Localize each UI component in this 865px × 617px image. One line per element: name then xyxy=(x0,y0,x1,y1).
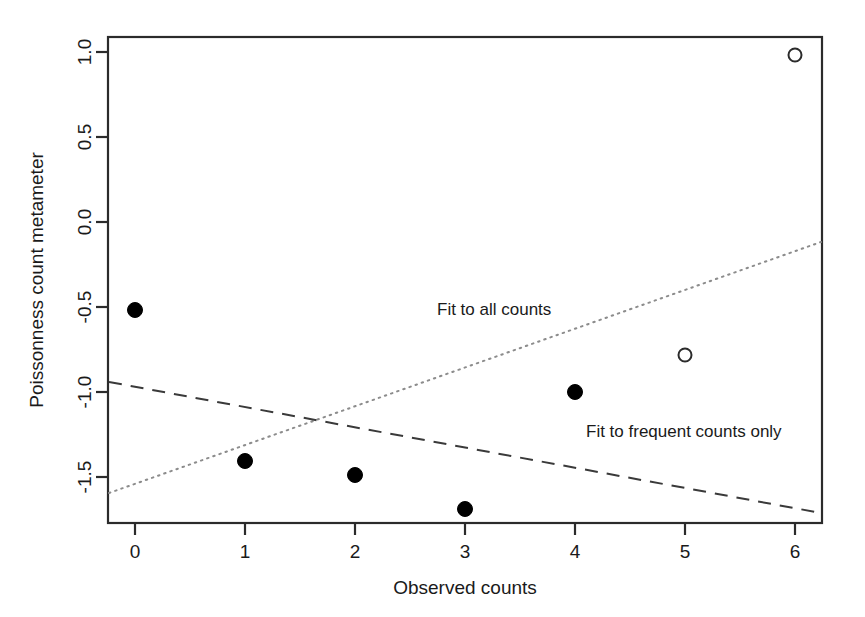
data-point-filled-3 xyxy=(458,502,473,517)
x-tick-label-6: 6 xyxy=(790,541,801,562)
data-point-filled-0 xyxy=(128,303,143,318)
y-tick-label-0: 1.0 xyxy=(74,39,95,65)
data-point-open-5 xyxy=(679,349,692,362)
y-axis-title: Poissonness count metameter xyxy=(26,152,47,408)
x-tick-label-4: 4 xyxy=(570,541,581,562)
x-axis-title: Observed counts xyxy=(393,577,537,598)
y-tick-label-5: -1.5 xyxy=(74,461,95,494)
data-point-filled-2 xyxy=(348,468,363,483)
data-point-filled-4 xyxy=(568,385,583,400)
data-point-filled-1 xyxy=(238,454,253,469)
annotation-fit-frequent-counts: Fit to frequent counts only xyxy=(586,422,782,441)
chart-figure: 1.0 0.5 0.0 -0.5 -1.0 -1.5 Poissonness c… xyxy=(0,0,865,617)
x-tick-label-2: 2 xyxy=(350,541,361,562)
y-tick-label-2: 0.0 xyxy=(74,209,95,235)
data-point-open-6 xyxy=(789,49,802,62)
y-tick-label-1: 0.5 xyxy=(74,124,95,150)
annotation-fit-all-counts: Fit to all counts xyxy=(437,300,551,319)
x-tick-label-0: 0 xyxy=(130,541,141,562)
poissonness-scatter-plot: 1.0 0.5 0.0 -0.5 -1.0 -1.5 Poissonness c… xyxy=(0,0,865,617)
x-tick-label-3: 3 xyxy=(460,541,471,562)
x-tick-label-5: 5 xyxy=(680,541,691,562)
y-tick-label-3: -0.5 xyxy=(74,291,95,324)
x-tick-label-1: 1 xyxy=(240,541,251,562)
y-tick-label-4: -1.0 xyxy=(74,376,95,409)
